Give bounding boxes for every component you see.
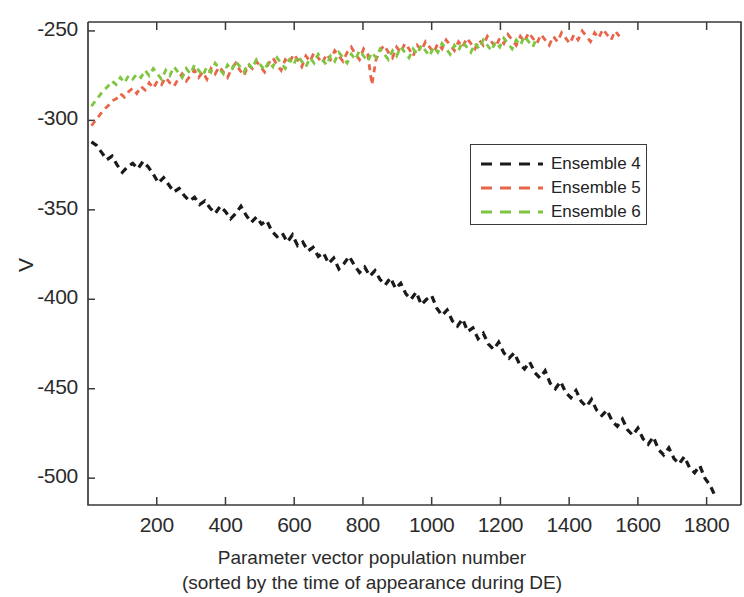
legend-item[interactable]: Ensemble 6 — [471, 198, 648, 225]
series-line — [91, 29, 619, 126]
y-tick-label: -450 — [8, 375, 78, 399]
y-tick-label: -500 — [8, 464, 78, 488]
plot-canvas — [0, 0, 744, 597]
legend-item[interactable]: Ensemble 4 — [471, 150, 648, 177]
y-tick-label: -400 — [8, 285, 78, 309]
legend-item[interactable]: Ensemble 5 — [471, 174, 648, 201]
x-tick-label: 1800 — [667, 513, 744, 537]
series-line — [91, 36, 536, 106]
chart-figure: -250-300-350-400-450-500 200400600800100… — [0, 0, 744, 597]
legend-item-label: Ensemble 6 — [551, 202, 641, 222]
x-axis-title: Parameter vector population number (sort… — [0, 545, 744, 595]
x-axis-title-line1: Parameter vector population number — [0, 545, 744, 570]
y-axis-title: V — [14, 258, 38, 272]
y-tick-label: -300 — [8, 106, 78, 130]
legend-line-swatch — [479, 202, 545, 222]
legend-line-swatch — [479, 154, 545, 174]
legend-item-label: Ensemble 5 — [551, 178, 641, 198]
y-tick-label: -250 — [8, 17, 78, 41]
legend: Ensemble 4Ensemble 5Ensemble 6 — [470, 144, 647, 225]
legend-item-label: Ensemble 4 — [551, 154, 641, 174]
series-group — [91, 29, 715, 496]
y-tick-label: -350 — [8, 196, 78, 220]
x-axis-title-line2: (sorted by the time of appearance during… — [0, 570, 744, 595]
legend-line-swatch — [479, 178, 545, 198]
axes-group — [88, 22, 741, 505]
